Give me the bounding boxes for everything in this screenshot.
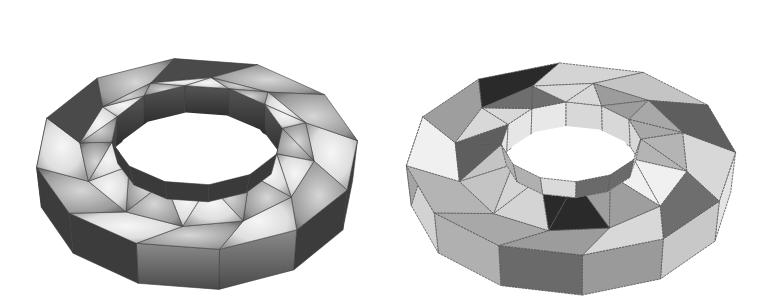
torus-faces xyxy=(37,59,358,290)
torus-faces xyxy=(406,63,735,295)
torus-figure-right xyxy=(383,0,766,301)
flat-shaded-torus xyxy=(383,0,766,301)
outer-side-face xyxy=(136,243,219,289)
torus-figure-left xyxy=(0,0,383,301)
smooth-shaded-torus xyxy=(0,0,383,301)
inner-lip-face xyxy=(165,182,209,202)
